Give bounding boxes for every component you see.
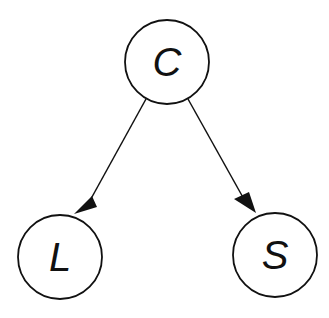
edge-c-to-l: [74, 99, 146, 214]
node-l-label: L: [49, 235, 71, 279]
node-s-label: S: [262, 233, 289, 277]
node-c-label: C: [153, 40, 183, 84]
node-c: C: [125, 20, 209, 104]
node-s: S: [233, 213, 317, 297]
node-l: L: [18, 215, 102, 299]
bayesian-network-diagram: C L S: [0, 0, 329, 318]
arrowhead-icon: [234, 192, 256, 213]
arrowhead-icon: [74, 196, 97, 214]
edge-c-to-s: [188, 99, 256, 213]
